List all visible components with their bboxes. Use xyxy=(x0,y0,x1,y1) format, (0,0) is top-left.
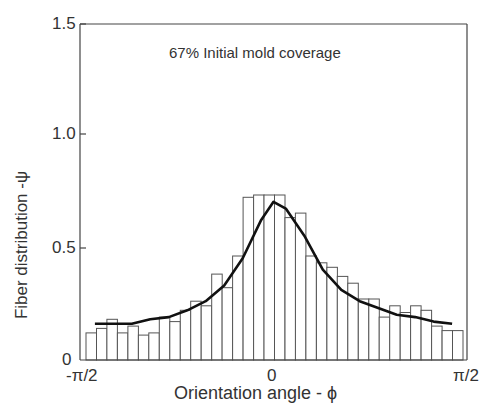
histogram-bar xyxy=(222,288,233,360)
histogram-bar xyxy=(316,263,327,360)
histogram-bar xyxy=(128,326,138,360)
histogram-bar xyxy=(264,195,275,360)
x-tick-pi-2: π/2 xyxy=(453,366,479,386)
histogram-bar xyxy=(86,333,97,360)
histogram-bar xyxy=(306,256,317,360)
y-tick-1.0: 1.0 xyxy=(52,124,76,144)
chart-annotation: 67% Initial mold coverage xyxy=(169,44,341,61)
histogram-bar xyxy=(149,333,160,360)
y-tick-0.5: 0.5 xyxy=(52,238,76,258)
histogram-bar xyxy=(358,299,369,360)
histogram-bar xyxy=(191,301,202,360)
x-tick-neg-pi-2: -π/2 xyxy=(66,366,98,386)
histogram-bar xyxy=(379,317,390,360)
histogram-bars xyxy=(86,195,463,360)
histogram-bar xyxy=(243,197,254,360)
histogram-bar xyxy=(180,310,191,360)
histogram-bar xyxy=(170,322,181,360)
histogram-bar xyxy=(117,333,128,360)
histogram-bar xyxy=(285,218,296,360)
y-axis-label: Fiber distribution -ψ xyxy=(12,171,32,319)
histogram-bar xyxy=(411,306,422,360)
histogram-bar xyxy=(107,319,118,360)
histogram-bar xyxy=(159,317,170,360)
chart-area xyxy=(0,0,499,417)
x-axis-label: Orientation angle - ϕ xyxy=(174,383,337,404)
histogram-bar xyxy=(453,331,464,360)
histogram-bar xyxy=(442,331,453,360)
histogram-bar xyxy=(97,328,108,360)
histogram-bar xyxy=(201,306,212,360)
y-tick-1.5: 1.5 xyxy=(52,14,76,34)
histogram-bar xyxy=(275,195,286,360)
histogram-bar xyxy=(432,326,443,360)
histogram-bar xyxy=(400,313,411,361)
histogram-bar xyxy=(138,335,149,360)
